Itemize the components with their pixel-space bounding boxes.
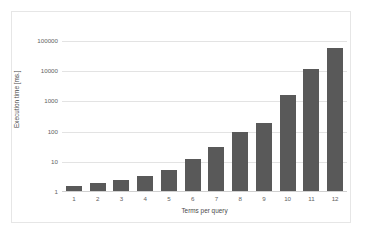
plot-area: [62, 41, 347, 192]
bar-series: [62, 41, 347, 192]
y-axis-title: Execution time [ms.]: [14, 44, 20, 154]
y-tick-label-1000: 1000: [44, 98, 58, 104]
bar-10[interactable]: [280, 95, 296, 192]
x-tick-label-9: 9: [252, 196, 276, 202]
x-tick-label-1: 1: [62, 196, 86, 202]
x-axis-baseline: [62, 191, 347, 192]
x-tick-label-10: 10: [276, 196, 300, 202]
bar-slot: [276, 41, 300, 192]
bar-slot: [86, 41, 110, 192]
bar-slot: [205, 41, 229, 192]
x-tick-label-7: 7: [205, 196, 229, 202]
y-tick-label-1: 1: [55, 189, 58, 195]
y-tick-label-10000: 10000: [41, 68, 58, 74]
bar-slot: [62, 41, 86, 192]
y-tick-label-100: 100: [48, 129, 58, 135]
bar-11[interactable]: [303, 69, 319, 192]
y-tick-label-100000: 100000: [37, 38, 58, 44]
x-axis-title: Terms per query: [62, 208, 347, 214]
bar-slot: [181, 41, 205, 192]
x-tick-label-3: 3: [110, 196, 134, 202]
bar-slot: [133, 41, 157, 192]
x-tick-label-12: 12: [323, 196, 347, 202]
bar-7[interactable]: [208, 147, 224, 192]
bar-5[interactable]: [161, 170, 177, 192]
chart-figure: 100000 10000 1000 100 10 1 Execution tim…: [0, 0, 368, 241]
bar-8[interactable]: [232, 132, 248, 192]
bar-slot: [228, 41, 252, 192]
x-tick-label-8: 8: [228, 196, 252, 202]
y-tick-label-10: 10: [51, 159, 58, 165]
bar-slot: [157, 41, 181, 192]
x-tick-label-2: 2: [86, 196, 110, 202]
x-tick-label-11: 11: [300, 196, 324, 202]
bar-slot: [300, 41, 324, 192]
bar-slot: [252, 41, 276, 192]
bar-9[interactable]: [256, 123, 272, 192]
x-axis-tick-labels: 123456789101112: [62, 196, 347, 202]
x-tick-label-5: 5: [157, 196, 181, 202]
bar-12[interactable]: [327, 48, 343, 192]
bar-6[interactable]: [185, 159, 201, 192]
bar-4[interactable]: [137, 176, 153, 192]
x-tick-label-4: 4: [133, 196, 157, 202]
x-tick-label-6: 6: [181, 196, 205, 202]
bar-slot: [110, 41, 134, 192]
y-axis-tick-labels: 100000 10000 1000 100 10 1: [14, 41, 58, 192]
bar-slot: [323, 41, 347, 192]
